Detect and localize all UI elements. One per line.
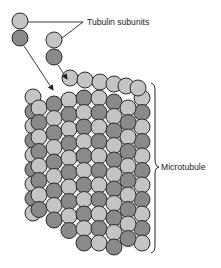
- tubulin-subunit: [61, 165, 77, 181]
- tubulin-subunit: [120, 202, 136, 218]
- tubulin-subunit: [76, 221, 92, 237]
- alpha-tubulin-subunit: [46, 32, 62, 48]
- tubulin-subunit: [120, 115, 136, 131]
- tubulin-subunit: [61, 136, 77, 152]
- tubulin-subunit: [91, 221, 107, 237]
- tubulin-subunit: [46, 198, 62, 214]
- tubulin-subunit: [31, 173, 47, 189]
- tubulin-subunit: [31, 187, 47, 203]
- tubulin-subunit: [76, 206, 92, 222]
- tubulin-subunit: [61, 223, 77, 239]
- beta-tubulin-subunit: [12, 30, 28, 46]
- tubulin-subunit: [46, 212, 62, 228]
- tubulin-subunit: [91, 148, 107, 164]
- tubulin-subunit: [76, 192, 92, 208]
- tubulin-subunit: [91, 177, 107, 193]
- microtubule-label: Microtubule: [161, 162, 206, 172]
- tubulin-subunit: [91, 134, 107, 150]
- free-tubulin-dimer-2: [46, 32, 62, 65]
- tubulin-subunit: [76, 119, 92, 135]
- tubulin-subunit: [120, 100, 136, 116]
- tubulin-subunit: [91, 192, 107, 208]
- tubulin-subunit: [120, 144, 136, 160]
- tubulin-subunit: [31, 115, 47, 131]
- tubulin-subunit: [120, 173, 136, 189]
- tubulin-subunit: [120, 158, 136, 174]
- tubulin-subunit: [61, 121, 77, 137]
- tubulin-subunits-label: Tubulin subunits: [87, 17, 149, 27]
- tubulin-subunit: [91, 235, 107, 251]
- microtubule-lattice: [25, 70, 150, 255]
- tubulin-subunit-top: [77, 72, 93, 88]
- tubulin-subunit: [106, 239, 122, 255]
- tubulin-subunit: [91, 119, 107, 135]
- tubulin-subunit: [31, 100, 47, 116]
- microtubule-diagram: Tubulin subunits Microtubule: [0, 0, 221, 268]
- brace-icon: [151, 83, 159, 253]
- alpha-tubulin-subunit: [12, 13, 28, 29]
- tubulin-subunit: [46, 111, 62, 127]
- tubulin-subunit: [31, 158, 47, 174]
- tubulin-subunit: [46, 96, 62, 112]
- tubulin-subunit: [76, 90, 92, 106]
- tubulin-subunit: [46, 183, 62, 199]
- tubulin-subunit: [91, 206, 107, 222]
- tubulin-subunit: [61, 107, 77, 123]
- tubulin-subunit: [120, 129, 136, 145]
- tubulin-subunit: [61, 179, 77, 195]
- beta-tubulin-subunit: [46, 49, 62, 65]
- tubulin-subunit: [31, 144, 47, 160]
- tubulin-subunit: [91, 163, 107, 179]
- tubulin-subunit: [120, 187, 136, 203]
- tubulin-subunit: [61, 194, 77, 210]
- tubulin-subunit: [76, 177, 92, 193]
- tubulin-subunit: [76, 235, 92, 251]
- tubulin-subunit: [46, 125, 62, 141]
- tubulin-subunit: [76, 163, 92, 179]
- tubulin-subunit: [91, 90, 107, 106]
- free-tubulin-dimer-1: [12, 13, 28, 46]
- tubulin-subunit: [61, 92, 77, 108]
- leader-line-2: [62, 22, 83, 38]
- tubulin-subunit: [76, 134, 92, 150]
- tubulin-subunit-top: [62, 70, 78, 86]
- tubulin-subunit: [31, 202, 47, 218]
- tubulin-subunit-top: [92, 74, 108, 90]
- tubulin-subunit: [76, 148, 92, 164]
- tubulin-subunit: [46, 154, 62, 170]
- tubulin-subunit: [120, 216, 136, 232]
- tubulin-subunit: [76, 105, 92, 121]
- tubulin-subunit: [91, 105, 107, 121]
- tubulin-subunit: [61, 150, 77, 166]
- tubulin-subunit: [46, 169, 62, 185]
- tubulin-subunit: [61, 208, 77, 224]
- tubulin-subunit: [31, 129, 47, 145]
- tubulin-subunit: [120, 231, 136, 247]
- tubulin-subunit: [46, 140, 62, 156]
- tubulin-subunit-top: [130, 80, 146, 96]
